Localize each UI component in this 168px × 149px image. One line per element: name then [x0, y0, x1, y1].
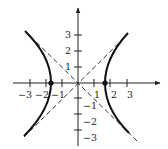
right-vertex-dot: [102, 80, 107, 85]
y-axis: 3 2 1 −1 −2 −3: [65, 8, 97, 146]
x-axis: −3 −2 −1 1 2 3: [13, 79, 160, 100]
x-tick-label: 3: [127, 89, 133, 100]
x-tick-label: −2: [35, 89, 49, 100]
x-tick-label: 2: [111, 89, 117, 100]
x-tick-label: −3: [18, 89, 32, 100]
x-tick-label: 1: [94, 89, 100, 100]
left-vertex-dot: [48, 80, 53, 85]
y-tick-label: 2: [65, 45, 71, 56]
y-tick-label: −1: [83, 100, 97, 111]
hyperbola-figure: −3 −2 −1 1 2 3 3 2 1 −1 −2 −3: [0, 0, 168, 149]
y-tick-label: −3: [83, 132, 97, 143]
y-tick-label: 1: [65, 61, 71, 72]
y-tick-label: −2: [83, 116, 97, 127]
x-tick-label: −1: [51, 89, 65, 100]
y-tick-label: 3: [65, 29, 71, 40]
